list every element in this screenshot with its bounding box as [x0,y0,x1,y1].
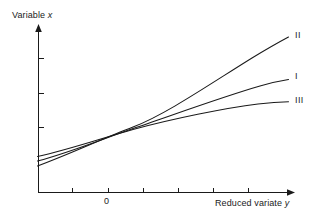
x-axis-arrowhead [287,189,295,196]
y-axis-arrowhead [35,24,42,32]
y-axis-title: Variable x [12,10,52,21]
plot-canvas [0,0,317,219]
curve-label-III: III [295,95,304,106]
y-axis-title-symbol: x [48,10,53,20]
figure-container: Variable x Reduced variate y 0 II I III [0,0,317,219]
x-axis-title-text: Reduced variate [215,198,285,208]
curve-III [38,102,289,157]
curve-label-II: II [295,30,301,41]
curve-label-I: I [295,71,298,82]
x-axis-tick-label-zero: 0 [104,196,109,207]
x-axis-title: Reduced variate y [215,198,289,209]
y-axis-title-text: Variable [12,10,48,20]
curve-I [38,80,289,162]
x-axis-title-symbol: y [285,198,290,208]
